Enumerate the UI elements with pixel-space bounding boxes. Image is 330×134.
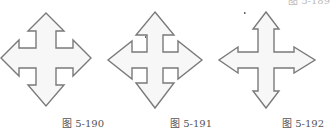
- scan-speck: [244, 12, 246, 14]
- scan-speck: [145, 36, 146, 38]
- four-way-arrow-icon-191: [108, 12, 202, 108]
- figure-caption-192: 图 5-192: [282, 115, 324, 130]
- partial-caption-top: 图 5-189: [288, 0, 330, 7]
- four-way-arrow-icon-192: [219, 12, 315, 108]
- figure-caption-190: 图 5-190: [62, 115, 104, 130]
- four-way-arrow-icon-190: [1, 13, 91, 106]
- figure-caption-191: 图 5-191: [170, 115, 212, 130]
